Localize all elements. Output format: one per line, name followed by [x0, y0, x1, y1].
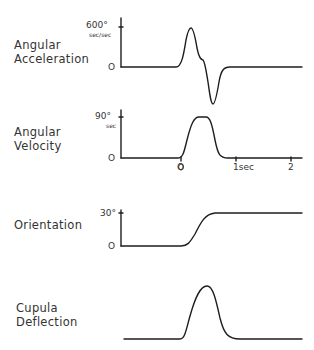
cupula-curve — [124, 286, 302, 339]
acceleration-axis — [119, 18, 123, 67]
plot-lines — [0, 0, 314, 350]
velocity-axis — [119, 110, 123, 158]
orientation-axis — [119, 210, 123, 246]
x-zero-marker — [179, 164, 184, 170]
velocity-curve — [121, 117, 302, 158]
figure: Angular Acceleration 600° sec/sec O Angu… — [0, 0, 314, 350]
acceleration-curve — [121, 28, 302, 104]
orientation-curve — [121, 213, 302, 246]
